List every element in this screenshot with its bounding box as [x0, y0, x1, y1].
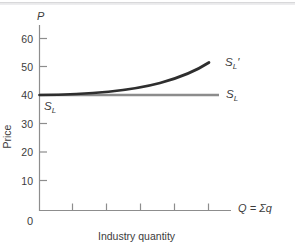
y-tick-label-60: 60 [13, 34, 33, 45]
curve-label-prime-mark: ′ [237, 56, 239, 68]
y-tick-label-30: 30 [13, 119, 33, 130]
x-axis-ticks [73, 204, 209, 211]
curve-label-constant-cost-inner: SL [44, 101, 56, 115]
y-axis-variable-label: P [37, 11, 44, 22]
curve-label-increasing-cost: SL′ [225, 57, 239, 71]
curve-label-subscript-L-inner: L [52, 106, 56, 115]
supply-curve-increasing-cost [40, 63, 210, 96]
curve-label-S: S [226, 88, 234, 100]
curve-label-S-prime: S [225, 56, 233, 68]
y-axis-title: Price [2, 125, 13, 149]
x-axis-title: Industry quantity [98, 231, 175, 242]
x-axis-variable-sum: Σq [259, 202, 272, 214]
curve-label-constant-cost: SL [226, 89, 238, 103]
curve-label-S-inner: S [44, 100, 52, 112]
x-axis-variable-label: Q = Σq [238, 203, 272, 214]
y-tick-label-40: 40 [13, 90, 33, 101]
y-tick-label-50: 50 [13, 62, 33, 73]
economics-supply-curve-figure: 60 50 40 30 20 10 0 P Q = Σq Price Indus… [0, 0, 295, 248]
curve-label-subscript-L: L [234, 94, 238, 103]
y-tick-label-10: 10 [13, 176, 33, 187]
origin-label: 0 [27, 216, 33, 227]
y-tick-label-20: 20 [13, 147, 33, 158]
x-axis-variable-Q: Q [238, 202, 247, 214]
